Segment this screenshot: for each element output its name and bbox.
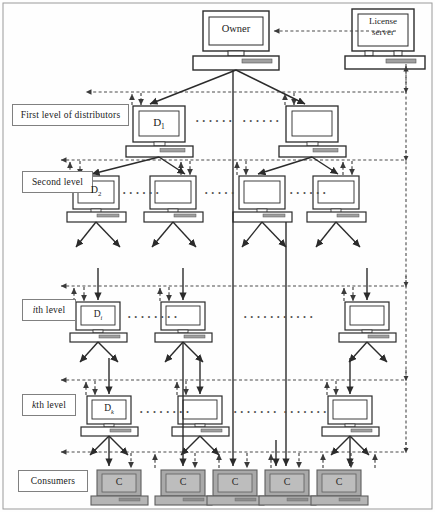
computer-ith-level-3 [339,302,396,342]
computer-consumer-3 [207,470,264,505]
level-label-consumers-text: Consumers [31,476,76,486]
arrow-first2-second-4 [312,157,338,174]
level-label-ith: ith level [22,299,76,321]
computer-consumer-4 [259,470,316,505]
computer-dk [81,396,138,436]
arrow-di-b [98,342,118,362]
computer-second-level-4 [307,176,366,222]
arrow-owner-first-2 [236,70,305,104]
arrow-di-a [80,342,98,362]
level-label-ith-text: ith level [33,305,66,315]
ellipsis-ith-b: • • • • • • • • • • • [244,313,314,320]
ellipsis-second-a: • • • • • • [123,189,160,196]
arrow-d1-d2 [92,157,159,174]
level-label-second-text: Second level [32,177,83,187]
computer-second-level-3 [233,176,292,222]
level-label-kth-text: kth level [32,400,66,410]
level-label-first: First level of distributors [12,104,129,126]
arrow-owner-d1 [150,70,236,104]
arrow-second3-a [242,222,262,247]
level-label-second: Second level [22,171,93,193]
computer-kth-level-2 [172,396,229,436]
computer-owner [193,11,279,70]
ellipsis-first-a: • • • • • • [196,117,233,124]
computer-second-level-2 [144,176,203,222]
arrow-ith3-a [349,342,367,362]
ellipsis-second-b: • • • • • [205,189,235,196]
computer-d1 [126,106,193,157]
arrow-second2-b [173,222,196,247]
ellipsis-kth-c: • • • • • • • [284,408,327,415]
ellipsis-ith-a: • • • • • • • • [128,313,178,320]
diagram-svg [0,0,435,512]
computer-consumer-5 [311,470,368,505]
arrow-second4-b [336,222,360,247]
ellipsis-kth-a: • • • • • • • • [140,408,190,415]
arrow-second4-a [316,222,336,247]
ellipsis-first-b: • • • • • • [243,117,280,124]
level-label-first-text: First level of distributors [21,110,121,120]
ellipsis-kth-b: • • • • • • • [234,408,277,415]
computer-di [70,302,127,342]
arrow-ith2-a [165,342,183,362]
diagram-canvas: First level of distributors Second level… [0,0,435,512]
arrow-d2-a [76,222,96,247]
level-label-consumers: Consumers [18,470,88,492]
computer-license-server [345,9,425,69]
computer-consumer-1 [91,470,148,505]
level-label-kth: kth level [22,394,76,416]
computer-ith-level-2 [155,302,212,342]
arrow-second3-b [262,222,286,247]
arrow-second2-a [152,222,173,247]
ellipsis-second-c: • • • • • • [290,189,327,196]
computer-consumer-2 [155,470,212,505]
arrow-ith3-b [367,342,387,362]
computer-first-level-2 [279,106,346,157]
computer-kth-level-3 [322,396,379,436]
arrow-d2-b [96,222,120,247]
